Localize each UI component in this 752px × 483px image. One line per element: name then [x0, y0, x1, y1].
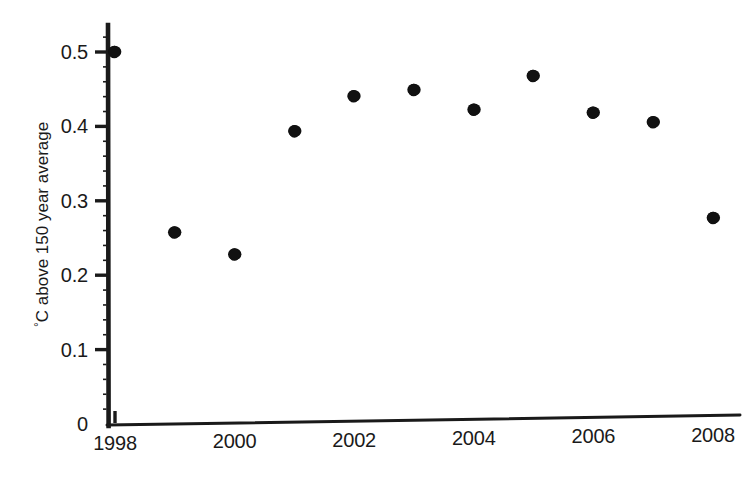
- x-tick-label-2004: 2004: [452, 428, 496, 448]
- y-tick-label-0.1: 0.1: [61, 340, 88, 360]
- data-point: [467, 103, 480, 116]
- axes-layer: [107, 25, 740, 426]
- data-point-marker-blob: [289, 125, 300, 138]
- y-tick-label-0.5: 0.5: [61, 42, 88, 62]
- y-tick-label-0: 0: [77, 414, 88, 434]
- x-tick-label-2006: 2006: [572, 426, 616, 446]
- y-tick-label-0.4: 0.4: [61, 116, 88, 136]
- y-axis-label: °C above 150 year average: [32, 122, 53, 327]
- x-axis-spine: [107, 415, 740, 425]
- data-point-marker-blob: [468, 103, 479, 116]
- data-point-marker-blob: [169, 226, 180, 239]
- data-points-layer: [108, 46, 720, 261]
- data-point: [527, 70, 540, 83]
- data-point: [347, 90, 360, 103]
- y-axis-label-text: C above 150 year average: [33, 122, 52, 322]
- x-tick-label-2008: 2008: [691, 425, 735, 445]
- data-point: [288, 125, 301, 138]
- x-tick-label-2002: 2002: [332, 430, 376, 450]
- data-point-marker-blob: [527, 70, 538, 83]
- tick-marks-layer: [95, 37, 115, 423]
- plot-area: [0, 0, 752, 483]
- data-point: [168, 226, 181, 239]
- data-point-marker-blob: [647, 116, 658, 129]
- x-tick-label-2000: 2000: [213, 431, 257, 451]
- data-point: [228, 248, 241, 261]
- y-axis-spine: [108, 25, 109, 426]
- data-point-marker-blob: [229, 248, 240, 261]
- data-point: [647, 116, 660, 129]
- data-point-marker-blob: [109, 46, 120, 59]
- data-point-marker-blob: [707, 212, 718, 225]
- data-point: [707, 212, 720, 225]
- y-tick-label-0.2: 0.2: [61, 265, 88, 285]
- degree-symbol: °: [32, 322, 46, 327]
- y-tick-label-0.3: 0.3: [61, 191, 88, 211]
- scatter-chart-figure: °C above 150 year average 00.10.20.30.40…: [0, 0, 752, 483]
- data-point-marker-blob: [587, 107, 598, 120]
- data-point: [407, 84, 420, 97]
- data-point-marker-blob: [348, 90, 359, 103]
- data-point: [587, 107, 600, 120]
- data-point-marker-blob: [408, 84, 419, 97]
- x-tick-label-1998: 1998: [93, 433, 137, 453]
